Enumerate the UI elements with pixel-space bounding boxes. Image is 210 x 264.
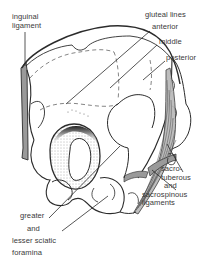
- posterior-gluteal-line-path: [150, 60, 152, 90]
- label-line: and: [12, 225, 56, 234]
- label-line: ligaments: [142, 199, 191, 208]
- ischial-tuberosity-outline: [100, 177, 124, 212]
- label-inguinal-ligament: inguinal ligament: [12, 13, 41, 30]
- label-sciatic-foramina: greater and lesser sciatic foramina: [12, 212, 56, 257]
- leader-posterior: [143, 61, 165, 80]
- inguinal-ligament-band: [21, 62, 28, 160]
- label-gluteal-anterior: anterior: [152, 23, 178, 32]
- label-sacrotuberous-sacrospinous: sacro- tuberous and sacrospinous ligamen…: [161, 165, 191, 208]
- hip-bone-diagram: inguinal ligament gluteal lines anterior…: [0, 0, 210, 264]
- leader-middle: [110, 45, 157, 88]
- label-gluteal-lines: gluteal lines: [145, 11, 186, 20]
- label-gluteal-posterior: posterior: [166, 54, 196, 63]
- label-line: greater: [12, 212, 56, 221]
- label-line: lesser sciatic: [12, 237, 56, 246]
- label-line: ligament: [12, 22, 41, 31]
- ischial-spine-region: [107, 104, 128, 178]
- iliac-crest-inner: [26, 36, 174, 66]
- label-gluteal-middle: middle: [159, 38, 182, 47]
- label-line: foramina: [12, 249, 56, 258]
- inferior-gluteal-line-path: [40, 103, 118, 110]
- iliac-crest-outline: [22, 26, 180, 84]
- leader-anterior: [66, 31, 150, 104]
